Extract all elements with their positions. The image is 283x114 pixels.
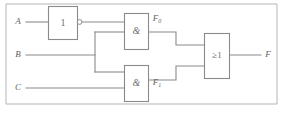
and-gate-top[interactable]: &	[125, 14, 149, 50]
logic-circuit-figure: 1 & & ≥1 A B C F F0 F1	[0, 0, 283, 114]
or-gate-symbol: ≥1	[212, 50, 221, 60]
input-b-label: B	[15, 49, 21, 59]
circuit-canvas: 1 & & ≥1 A B C F F0 F1	[0, 0, 283, 114]
not-gate-inversion-bubble	[77, 20, 82, 25]
and-gate-bottom[interactable]: &	[125, 66, 149, 102]
output-f-label: F	[264, 49, 271, 59]
label-f0: F0	[152, 13, 162, 24]
and-gate-bottom-symbol: &	[133, 77, 141, 88]
not-gate-symbol: 1	[61, 17, 66, 28]
or-gate[interactable]: ≥1	[205, 34, 230, 79]
input-c-label: C	[15, 82, 22, 92]
not-gate[interactable]: 1	[49, 7, 83, 40]
wire-f0-to-or	[148, 32, 204, 45]
label-f1-subscript: 1	[158, 82, 161, 88]
label-f0-subscript: 0	[158, 18, 161, 24]
label-f1: F1	[152, 77, 162, 88]
input-a-label: A	[14, 16, 21, 26]
and-gate-top-symbol: &	[133, 25, 141, 36]
